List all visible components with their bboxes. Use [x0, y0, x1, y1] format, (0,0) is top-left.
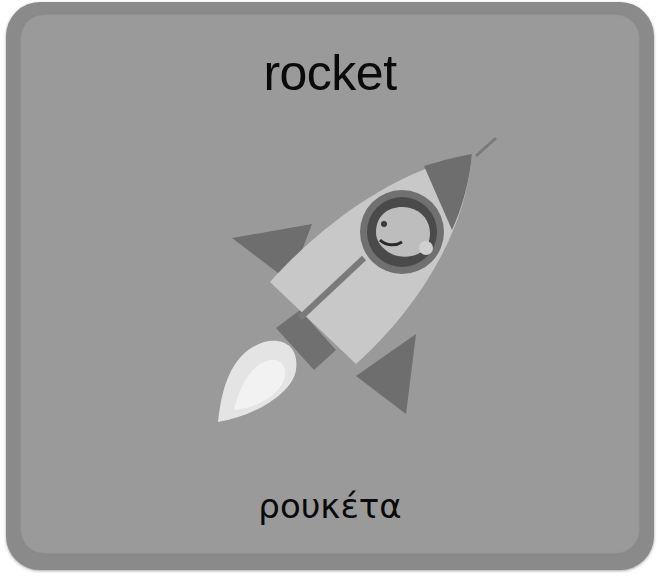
- flashcard: rocket: [6, 2, 654, 570]
- rocket-icon: [204, 132, 514, 442]
- flashcard-face: rocket: [20, 14, 640, 554]
- greek-word: ρουκέτα: [20, 486, 640, 526]
- english-word: rocket: [20, 44, 640, 102]
